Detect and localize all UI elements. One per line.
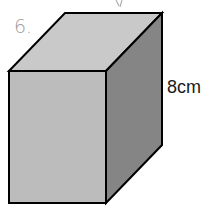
height-dimension-label: 8cm <box>167 78 201 96</box>
cuboid-diagram: 6. 8cm <box>0 0 209 209</box>
cuboid-front-face <box>9 71 106 203</box>
handwritten-note: 6. <box>14 17 32 36</box>
handwritten-scribble <box>114 0 126 8</box>
